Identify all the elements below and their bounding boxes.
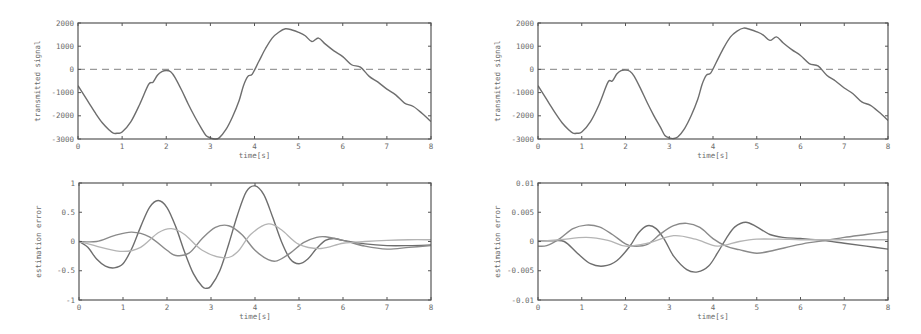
x-tick-label: 2 <box>623 142 628 151</box>
series-line-3 <box>538 236 888 247</box>
y-tick-label: 0 <box>70 237 75 246</box>
series-line-1 <box>78 29 431 139</box>
x-tick-label: 1 <box>121 303 126 312</box>
plot-bottom-left: 012345678-1-0.500.51time[s]estimation er… <box>34 179 434 321</box>
x-tick-label: 0 <box>536 303 541 312</box>
y-tick-label: -1000 <box>51 88 74 97</box>
x-axis-label: time[s] <box>239 151 271 160</box>
y-tick-label: 0.01 <box>516 179 534 188</box>
x-tick-label: 8 <box>886 303 891 312</box>
plot-top-right: 012345678-3000-2000-1000010002000time[s]… <box>493 19 891 160</box>
x-tick-label: 6 <box>341 303 346 312</box>
y-axis-label: estimation error <box>493 205 502 278</box>
y-tick-label: -3000 <box>511 135 534 144</box>
y-tick-label: -1 <box>66 296 75 305</box>
x-tick-label: 6 <box>340 142 345 151</box>
x-tick-label: 1 <box>579 142 584 151</box>
x-tick-label: 3 <box>667 303 672 312</box>
x-axis-label: time[s] <box>697 312 729 321</box>
x-tick-label: 1 <box>120 142 125 151</box>
y-tick-label: -0.5 <box>57 266 75 275</box>
x-tick-label: 0 <box>77 303 82 312</box>
y-tick-label: 0 <box>529 65 534 74</box>
x-tick-label: 4 <box>711 303 716 312</box>
plot-bottom-right: 012345678-0.01-0.00500.0050.01time[s]est… <box>493 179 891 321</box>
x-tick-label: 3 <box>208 142 213 151</box>
x-tick-label: 7 <box>842 303 847 312</box>
x-tick-label: 5 <box>296 142 301 151</box>
y-tick-label: -2000 <box>511 111 534 120</box>
x-tick-label: 5 <box>754 142 759 151</box>
x-tick-label: 1 <box>579 303 584 312</box>
series-line-1 <box>79 186 431 289</box>
plot-top-left: 012345678-3000-2000-1000010002000time[s]… <box>33 19 434 160</box>
y-tick-label: 2000 <box>516 19 535 28</box>
x-tick-label: 8 <box>886 142 891 151</box>
x-tick-label: 7 <box>385 303 390 312</box>
y-tick-label: -0.005 <box>507 266 534 275</box>
y-tick-label: -1000 <box>511 88 534 97</box>
x-tick-label: 8 <box>429 142 434 151</box>
y-tick-label: 1000 <box>516 42 535 51</box>
x-tick-label: 7 <box>842 142 847 151</box>
y-axis-label: transmitted signal <box>33 40 42 121</box>
x-axis-label: time[s] <box>697 151 729 160</box>
x-tick-label: 5 <box>297 303 302 312</box>
y-tick-label: 0 <box>529 237 534 246</box>
y-tick-label: 2000 <box>56 19 75 28</box>
x-axis-label: time[s] <box>239 312 271 321</box>
x-tick-label: 2 <box>623 303 628 312</box>
figure-canvas: 012345678-3000-2000-1000010002000time[s]… <box>0 0 921 334</box>
y-tick-label: 0 <box>69 65 74 74</box>
x-tick-label: 8 <box>429 303 434 312</box>
x-tick-label: 7 <box>385 142 390 151</box>
x-tick-label: 0 <box>76 142 81 151</box>
x-tick-label: 4 <box>252 142 257 151</box>
series-line-1 <box>538 28 888 139</box>
y-tick-label: -3000 <box>51 135 74 144</box>
y-tick-label: -2000 <box>51 111 74 120</box>
y-tick-label: 0.5 <box>61 208 75 217</box>
series-line-1 <box>538 222 888 272</box>
x-tick-label: 3 <box>667 142 672 151</box>
x-tick-label: 4 <box>711 142 716 151</box>
x-tick-label: 6 <box>798 142 803 151</box>
series-line-3 <box>79 224 431 258</box>
plot-frame <box>79 183 431 300</box>
series-line-2 <box>538 223 888 253</box>
y-tick-label: 0.005 <box>511 208 534 217</box>
y-axis-label: transmitted signal <box>493 40 502 121</box>
y-tick-label: 1000 <box>56 42 75 51</box>
x-tick-label: 4 <box>253 303 258 312</box>
x-tick-label: 0 <box>536 142 541 151</box>
y-axis-label: estimation error <box>34 205 43 278</box>
x-tick-label: 3 <box>209 303 214 312</box>
y-tick-label: -0.01 <box>511 296 534 305</box>
x-tick-label: 5 <box>754 303 759 312</box>
x-tick-label: 2 <box>165 303 170 312</box>
x-tick-label: 2 <box>164 142 169 151</box>
y-tick-label: 1 <box>70 179 75 188</box>
x-tick-label: 6 <box>798 303 803 312</box>
